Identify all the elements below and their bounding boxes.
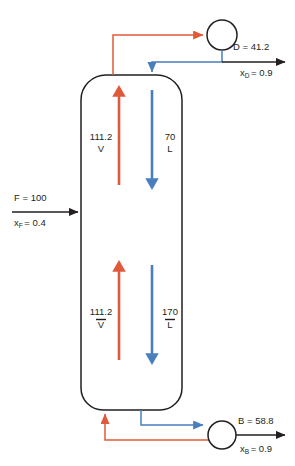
- feed-x-subscript: F: [19, 222, 23, 229]
- flowsheet-canvas: D = 41.2 xD= 0.9 111.2 V 70 L F = 100 xF…: [0, 0, 295, 466]
- reboiler-symbol: [208, 421, 236, 449]
- boilup-pipe: [105, 414, 215, 440]
- feed-stream: F = 100 xF= 0.4: [12, 192, 78, 229]
- boilup-line: [105, 414, 215, 440]
- stripping-vapor-arrow: 111.2 V: [90, 263, 119, 360]
- rectifying-vapor-value: 111.2: [90, 131, 112, 142]
- distillate-x-subscript: D: [245, 72, 250, 79]
- feed-flow-label: F = 100: [14, 192, 46, 203]
- rectifying-liquid-arrow: 70 L: [152, 90, 175, 187]
- bottoms-stream: B = 58.8 xB= 0.9: [236, 415, 285, 455]
- stripping-vapor-value: 111.2: [90, 306, 112, 317]
- distillate-flow-label: D = 41.2: [233, 41, 269, 52]
- distillate-composition-label: xD= 0.9: [240, 67, 272, 79]
- rectifying-liquid-value: 70: [165, 131, 176, 142]
- bottoms-x-subscript: B: [245, 448, 250, 455]
- distillate-x-value: = 0.9: [251, 67, 272, 78]
- feed-composition-label: xF= 0.4: [14, 217, 46, 229]
- reboiler: [208, 421, 236, 449]
- rectifying-vapor-symbol: V: [98, 143, 105, 154]
- bottoms-liquid-pipe: [141, 410, 203, 425]
- vapor-to-condenser-pipe: [113, 35, 203, 75]
- bottoms-x-value: = 0.9: [251, 443, 272, 454]
- stripping-vapor-symbol: V: [98, 319, 105, 330]
- overhead-vapor-line: [113, 35, 203, 75]
- reflux-pipe: [152, 50, 222, 72]
- stripping-liquid-arrow: 170 L: [152, 265, 178, 362]
- distillation-column: [81, 75, 182, 410]
- stripping-liquid-value: 170: [162, 306, 178, 317]
- column-shell: [81, 75, 182, 410]
- distillation-flowsheet: D = 41.2 xD= 0.9 111.2 V 70 L F = 100 xF…: [0, 0, 295, 466]
- reflux-line: [152, 50, 222, 72]
- rectifying-vapor-arrow: 111.2 V: [90, 88, 119, 185]
- bottoms-flow-label: B = 58.8: [238, 415, 274, 426]
- bottoms-to-reboiler-line: [141, 410, 203, 425]
- feed-x-value: = 0.4: [24, 217, 45, 228]
- bottoms-composition-label: xB= 0.9: [240, 443, 272, 455]
- rectifying-liquid-symbol: L: [167, 143, 172, 154]
- stripping-liquid-symbol: L: [167, 319, 172, 330]
